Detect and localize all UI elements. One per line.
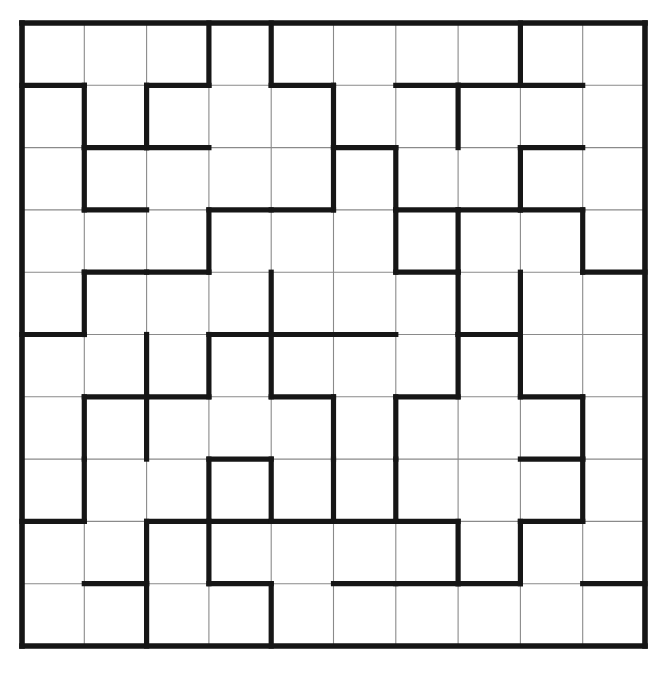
- grid-cell[interactable]: [396, 335, 458, 397]
- grid-cell[interactable]: [583, 23, 645, 85]
- grid-cell[interactable]: [583, 210, 645, 272]
- grid-cell[interactable]: [209, 459, 271, 521]
- grid-cell[interactable]: [583, 521, 645, 583]
- grid-cell[interactable]: [458, 272, 520, 334]
- grid-cell[interactable]: [84, 335, 146, 397]
- grid-cell[interactable]: [147, 148, 209, 210]
- grid-cell[interactable]: [458, 521, 520, 583]
- grid-cell[interactable]: [147, 23, 209, 85]
- grid-cell[interactable]: [396, 210, 458, 272]
- grid-cell[interactable]: [84, 397, 146, 459]
- grid-cell[interactable]: [271, 397, 333, 459]
- grid-cell[interactable]: [271, 148, 333, 210]
- grid-cell[interactable]: [271, 210, 333, 272]
- grid-cell[interactable]: [583, 584, 645, 646]
- grid-cell[interactable]: [520, 272, 582, 334]
- grid-cell[interactable]: [583, 397, 645, 459]
- grid-cell[interactable]: [334, 335, 396, 397]
- grid-cell[interactable]: [396, 85, 458, 147]
- grid-cell[interactable]: [520, 521, 582, 583]
- grid-cell[interactable]: [147, 521, 209, 583]
- grid-cell[interactable]: [396, 584, 458, 646]
- grid-cell[interactable]: [583, 459, 645, 521]
- grid-cell[interactable]: [147, 459, 209, 521]
- grid-cell[interactable]: [334, 272, 396, 334]
- grid-cell[interactable]: [22, 85, 84, 147]
- grid-cell[interactable]: [396, 521, 458, 583]
- grid-cell[interactable]: [458, 459, 520, 521]
- grid-cell[interactable]: [209, 521, 271, 583]
- grid-cell[interactable]: [147, 210, 209, 272]
- grid-cell[interactable]: [458, 335, 520, 397]
- grid-cell[interactable]: [84, 584, 146, 646]
- grid-cell[interactable]: [271, 85, 333, 147]
- grid-cell[interactable]: [396, 272, 458, 334]
- grid-cell[interactable]: [271, 335, 333, 397]
- grid-cell[interactable]: [22, 459, 84, 521]
- grid-cell[interactable]: [147, 335, 209, 397]
- grid-cell[interactable]: [22, 521, 84, 583]
- grid-cell[interactable]: [520, 584, 582, 646]
- grid-cell[interactable]: [334, 521, 396, 583]
- grid-cell[interactable]: [209, 335, 271, 397]
- grid-cell[interactable]: [334, 459, 396, 521]
- grid-cell[interactable]: [458, 23, 520, 85]
- grid-cell[interactable]: [22, 584, 84, 646]
- grid-cell[interactable]: [334, 23, 396, 85]
- grid-cell[interactable]: [22, 397, 84, 459]
- grid-cell[interactable]: [520, 459, 582, 521]
- grid-cell[interactable]: [271, 272, 333, 334]
- grid-cell[interactable]: [84, 272, 146, 334]
- grid-cell[interactable]: [334, 397, 396, 459]
- grid-cell[interactable]: [84, 521, 146, 583]
- grid-cell[interactable]: [583, 148, 645, 210]
- grid-cell[interactable]: [147, 584, 209, 646]
- grid-cell[interactable]: [583, 335, 645, 397]
- grid-cell[interactable]: [458, 210, 520, 272]
- grid-cell[interactable]: [147, 397, 209, 459]
- grid-cell[interactable]: [520, 23, 582, 85]
- grid-cell[interactable]: [22, 335, 84, 397]
- grid-cell[interactable]: [396, 397, 458, 459]
- grid-cell[interactable]: [520, 148, 582, 210]
- grid-cell[interactable]: [209, 397, 271, 459]
- grid-cell[interactable]: [84, 459, 146, 521]
- grid-cell[interactable]: [583, 85, 645, 147]
- grid-cell[interactable]: [520, 85, 582, 147]
- grid-cell[interactable]: [209, 584, 271, 646]
- grid-cell[interactable]: [334, 584, 396, 646]
- grid-cell[interactable]: [458, 85, 520, 147]
- grid-cell[interactable]: [458, 148, 520, 210]
- grid-cell[interactable]: [396, 23, 458, 85]
- grid-cell[interactable]: [84, 210, 146, 272]
- grid-cell[interactable]: [209, 210, 271, 272]
- grid-cell[interactable]: [334, 85, 396, 147]
- grid-cell[interactable]: [334, 148, 396, 210]
- grid-cell[interactable]: [583, 272, 645, 334]
- grid-cell[interactable]: [209, 85, 271, 147]
- grid-cell[interactable]: [396, 148, 458, 210]
- grid-cell[interactable]: [396, 459, 458, 521]
- grid-cell[interactable]: [458, 584, 520, 646]
- grid-cell[interactable]: [147, 272, 209, 334]
- grid-cell[interactable]: [84, 148, 146, 210]
- grid-cell[interactable]: [520, 335, 582, 397]
- grid-cell[interactable]: [458, 397, 520, 459]
- grid-cell[interactable]: [22, 148, 84, 210]
- grid-cell[interactable]: [271, 521, 333, 583]
- grid-cell[interactable]: [209, 148, 271, 210]
- grid-cell[interactable]: [22, 210, 84, 272]
- grid-cell[interactable]: [84, 23, 146, 85]
- grid-cell[interactable]: [271, 459, 333, 521]
- grid-cell[interactable]: [147, 85, 209, 147]
- grid-cell[interactable]: [520, 210, 582, 272]
- grid-cell[interactable]: [84, 85, 146, 147]
- grid-cell[interactable]: [271, 23, 333, 85]
- grid-cell[interactable]: [22, 272, 84, 334]
- grid-cell[interactable]: [209, 23, 271, 85]
- grid-cell[interactable]: [209, 272, 271, 334]
- grid-cell[interactable]: [334, 210, 396, 272]
- grid-cell[interactable]: [22, 23, 84, 85]
- grid-cell[interactable]: [520, 397, 582, 459]
- grid-cell[interactable]: [271, 584, 333, 646]
